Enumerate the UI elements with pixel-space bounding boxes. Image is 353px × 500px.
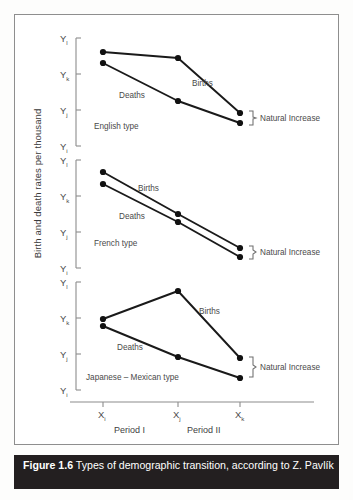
panel1-natural-increase-brace bbox=[249, 111, 256, 125]
figure-caption-text: Figure 1.6 Types of demographic transiti… bbox=[23, 459, 339, 472]
panel3-deaths-point-xj bbox=[175, 354, 181, 360]
panel2-ylabel-yi: Yi bbox=[60, 263, 68, 276]
panel2-natural-increase-label: Natural Increase bbox=[260, 248, 321, 257]
figure-caption-body: Types of demographic transition, accordi… bbox=[76, 459, 334, 471]
panel3-ylabel-yl: Yl bbox=[60, 277, 68, 290]
panel1-ylabel-yl: Yl bbox=[60, 33, 68, 46]
panel2-births-line bbox=[103, 172, 240, 248]
panel3-deaths-point-xi bbox=[100, 323, 106, 329]
x-label-xj: Xj bbox=[173, 409, 181, 422]
x-label-xk: Xk bbox=[235, 409, 245, 422]
figure-caption-bar: Figure 1.6 Types of demographic transiti… bbox=[14, 455, 339, 489]
period-label-1: Period I bbox=[114, 425, 145, 435]
panel2-ylabel-yj: Yj bbox=[60, 227, 68, 240]
panel1-ylabel-yk: Yk bbox=[60, 69, 70, 82]
panel3-deaths-line bbox=[103, 326, 240, 378]
panel1-births-point-xj bbox=[175, 55, 181, 61]
panel3-births-point-xk bbox=[237, 355, 243, 361]
panel1-natural-increase-label: Natural Increase bbox=[260, 114, 321, 123]
panel-english-type: Yl Yk Yj Yi Births Deaths English type N… bbox=[60, 33, 321, 154]
demographic-transition-chart: Yl Yk Yj Yi Births Deaths English type N… bbox=[14, 14, 339, 445]
panel1-births-label: Births bbox=[192, 79, 213, 88]
panel1-births-line bbox=[103, 52, 240, 113]
panel3-deaths-label: Deaths bbox=[117, 343, 143, 352]
panel3-ylabel-yj: Yj bbox=[60, 349, 68, 362]
panel2-births-point-xj bbox=[175, 211, 181, 217]
panel1-ylabel-yi: Yi bbox=[60, 141, 68, 154]
panel2-births-point-xi bbox=[100, 169, 106, 175]
figure-number: Figure 1.6 bbox=[23, 459, 73, 471]
panel2-deaths-point-xj bbox=[175, 219, 181, 225]
panel1-deaths-point-xk bbox=[237, 120, 243, 126]
panel1-type-label: English type bbox=[94, 122, 139, 131]
panel3-births-label: Births bbox=[199, 307, 220, 316]
panel1-deaths-label: Deaths bbox=[119, 91, 145, 100]
panel3-natural-increase-brace bbox=[249, 357, 256, 377]
period-label-2: Period II bbox=[187, 425, 221, 435]
panel2-deaths-point-xk bbox=[237, 254, 243, 260]
panel-japanese-mexican-type: Yl Yk Yj Yi Births Deaths Japanese – Mex… bbox=[60, 277, 321, 398]
panel3-ylabel-yk: Yk bbox=[60, 313, 70, 326]
panel2-births-point-xk bbox=[237, 245, 243, 251]
x-label-xi: Xi bbox=[98, 409, 106, 422]
panel3-ylabel-yi: Yi bbox=[60, 385, 68, 398]
panel-french-type: Yl Yk Yj Yi Births Deaths French type Na… bbox=[60, 155, 321, 276]
panel2-births-label: Births bbox=[138, 184, 159, 193]
panel3-births-point-xi bbox=[100, 316, 106, 322]
panel1-births-point-xk bbox=[237, 110, 243, 116]
panel2-deaths-point-xi bbox=[100, 181, 106, 187]
panel3-deaths-point-xk bbox=[237, 375, 243, 381]
panel1-deaths-point-xj bbox=[175, 98, 181, 104]
figure-container: Birth and death rates per thousand Yl Yk… bbox=[0, 0, 353, 500]
panel2-ylabel-yl: Yl bbox=[60, 155, 68, 168]
panel1-deaths-point-xi bbox=[100, 60, 106, 66]
panel3-type-label: Japanese – Mexican type bbox=[86, 373, 179, 382]
panel2-ylabel-yk: Yk bbox=[60, 191, 70, 204]
panel1-ylabel-yj: Yj bbox=[60, 105, 68, 118]
panel3-natural-increase-label: Natural Increase bbox=[260, 363, 321, 372]
panel2-type-label: French type bbox=[94, 239, 138, 248]
panel3-births-point-xj bbox=[175, 288, 181, 294]
x-axis-group: Xi Xj Xk Period I Period II bbox=[70, 402, 314, 435]
panel2-deaths-label: Deaths bbox=[119, 212, 145, 221]
panel2-natural-increase-brace bbox=[249, 246, 256, 259]
panel1-births-point-xi bbox=[100, 49, 106, 55]
